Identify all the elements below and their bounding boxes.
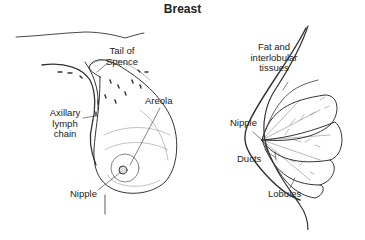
label-line: Axillary [42, 108, 88, 119]
label-line: tissues [240, 63, 308, 74]
label-line: Fat and [240, 42, 308, 53]
label-fat-interlobular-tissues: Fat and interlobular tissues [240, 42, 308, 74]
label-ducts: Ducts [237, 154, 261, 165]
label-line: Tail of [97, 46, 147, 57]
label-lobules: Lobules [268, 189, 301, 200]
label-axillary-lymph-chain: Axillary lymph chain [42, 108, 88, 140]
label-line: Spence [97, 57, 147, 68]
label-tail-of-spence: Tail of Spence [97, 46, 147, 67]
label-line: chain [42, 129, 88, 140]
label-nipple-left: Nipple [70, 189, 97, 200]
label-areola: Areola [145, 96, 172, 107]
label-nipple-right: Nipple [230, 118, 257, 129]
